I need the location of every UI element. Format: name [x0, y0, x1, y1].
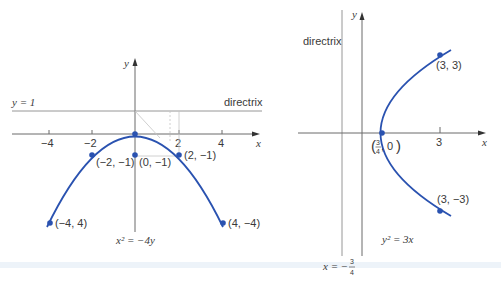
directrix-eq-num: 3	[350, 258, 354, 265]
right-y-axis-label: y	[351, 8, 357, 20]
left-equation-label: x² = −4y	[115, 234, 155, 246]
figure-canvas: y x y = 1 directrix −4 −2 2 4 (−4, 4	[0, 0, 501, 286]
tick-label: 3	[436, 136, 442, 148]
point-label: (−4, 4)	[55, 217, 87, 229]
point-label: (3, −3)	[437, 193, 469, 205]
point	[132, 131, 138, 137]
tick-label: −2	[84, 137, 97, 149]
right-x-axis-label: x	[481, 136, 487, 148]
right-x-arrow-icon	[478, 131, 486, 136]
left-x-axis-label: x	[255, 137, 261, 149]
point-label: (4, −4)	[228, 217, 260, 229]
tick-label: −4	[41, 137, 54, 149]
focus-rest: , 0	[381, 140, 393, 152]
point	[89, 152, 95, 158]
focus-point	[379, 130, 385, 136]
focus-den: 4	[376, 148, 380, 155]
tick-label: 4	[218, 137, 224, 149]
directrix-eq-den: 4	[350, 269, 354, 276]
point-label: (0, −1)	[139, 156, 171, 168]
left-y-axis-label: y	[123, 57, 129, 69]
point	[220, 220, 226, 226]
point	[47, 220, 53, 226]
right-equation-label: y² = 3x	[381, 233, 414, 245]
point	[437, 208, 443, 214]
tick-label: 2	[175, 137, 181, 149]
point-label: (−2, −1)	[96, 156, 135, 168]
background-band	[0, 262, 501, 268]
focus-label: ( 3 4 , 0 )	[371, 137, 401, 155]
left-x-arrow-icon	[252, 132, 260, 137]
left-parabola-chart: y x y = 1 directrix −4 −2 2 4 (−4, 4	[11, 57, 263, 246]
point-label: (2, −1)	[184, 149, 216, 161]
right-parabola-chart: directrix y x 3 (3, 3) (3, −3) ( 3 4 , 0…	[298, 8, 487, 276]
right-directrix-label: directrix	[303, 35, 342, 47]
right-directrix-equation: x = − 3 4	[322, 258, 355, 276]
left-directrix-label: directrix	[224, 96, 263, 108]
paren-close: )	[396, 137, 401, 154]
focus-num: 3	[376, 139, 380, 146]
right-y-arrow-icon	[360, 12, 365, 20]
point	[437, 52, 443, 58]
left-directrix-equation: y = 1	[11, 96, 35, 108]
directrix-eq-prefix: x = −	[322, 260, 348, 272]
left-y-arrow-icon	[133, 58, 138, 66]
point	[176, 152, 182, 158]
point-label: (3, 3)	[436, 59, 462, 71]
